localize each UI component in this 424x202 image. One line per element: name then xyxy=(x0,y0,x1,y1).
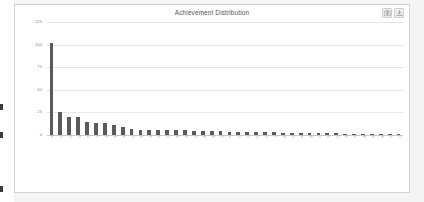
bar[interactable] xyxy=(85,122,89,135)
y-tick-label: 100 xyxy=(35,42,42,46)
chart-toolbar xyxy=(382,8,404,18)
y-tick-label: 75 xyxy=(37,65,42,69)
bar-series xyxy=(47,22,403,135)
bar[interactable] xyxy=(67,117,71,135)
page-edge-tick xyxy=(0,186,3,192)
bar[interactable] xyxy=(76,117,80,135)
chart-header: Achievement Distribution xyxy=(15,5,409,22)
x-axis: PerfectionistCompletionistJourney's End … xyxy=(47,135,403,193)
y-axis: 0255075100125 xyxy=(15,22,45,135)
bar[interactable] xyxy=(121,127,125,135)
y-tick-label: 0 xyxy=(40,133,42,137)
bar[interactable] xyxy=(112,125,116,135)
x-tick-label: Legacy Learner xyxy=(399,135,403,139)
camera-icon[interactable] xyxy=(382,8,392,18)
plot-area: 0255075100125 PerfectionistCompletionist… xyxy=(15,22,411,193)
chart-card: Achievement Distribution 0255075 xyxy=(14,4,410,193)
page-title: Achievement Distribution xyxy=(15,9,409,16)
bar[interactable] xyxy=(58,112,62,136)
y-tick-label: 25 xyxy=(37,110,42,114)
bar[interactable] xyxy=(94,123,98,135)
y-tick-label: 50 xyxy=(37,88,42,92)
page-edge-artifacts xyxy=(0,0,14,202)
bar[interactable] xyxy=(50,43,54,135)
bar[interactable] xyxy=(103,123,107,135)
y-tick-label: 125 xyxy=(35,20,42,24)
download-icon[interactable] xyxy=(394,8,404,18)
page-edge-tick xyxy=(0,104,3,110)
page-edge-tick xyxy=(0,132,3,138)
